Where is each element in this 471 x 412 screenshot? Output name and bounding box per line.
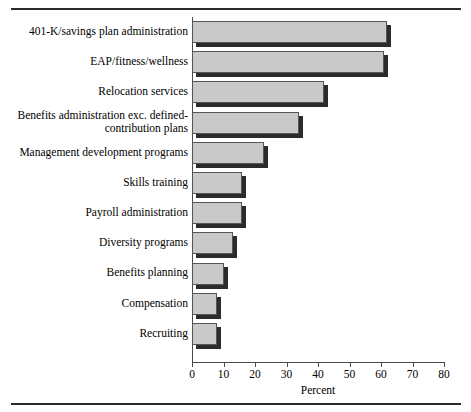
x-tick-label: 80	[438, 368, 450, 380]
chart-figure: 401-K/savings plan administrationEAP/fit…	[0, 0, 471, 412]
x-tick	[192, 362, 193, 367]
bar	[192, 51, 384, 73]
bar	[192, 263, 224, 285]
x-axis-title-text: Percent	[301, 384, 335, 396]
bar	[192, 112, 299, 134]
x-tick-label: 0	[189, 368, 195, 380]
bar	[192, 202, 242, 224]
category-label: Benefits planning	[107, 266, 188, 279]
x-tick	[381, 362, 382, 367]
x-tick	[318, 362, 319, 367]
category-label: Payroll administration	[85, 206, 188, 219]
category-label: Recruiting	[139, 327, 188, 340]
category-label: Skills training	[123, 176, 188, 189]
bar	[192, 323, 217, 345]
bar	[192, 142, 264, 164]
bottom-rule	[11, 403, 461, 405]
x-tick	[413, 362, 414, 367]
bar	[192, 232, 233, 254]
bar	[192, 172, 242, 194]
x-tick-label: 20	[249, 368, 261, 380]
x-tick	[287, 362, 288, 367]
category-label: Relocation services	[98, 85, 188, 98]
x-tick-label: 10	[218, 368, 230, 380]
x-tick	[350, 362, 351, 367]
x-tick	[224, 362, 225, 367]
category-label: Benefits administration exc. defined- co…	[17, 109, 188, 134]
category-label: 401-K/savings plan administration	[29, 25, 188, 38]
x-tick	[444, 362, 445, 367]
bar	[192, 21, 387, 43]
category-label: Compensation	[122, 297, 188, 310]
x-tick-label: 60	[375, 368, 387, 380]
plot-area: 401-K/savings plan administrationEAP/fit…	[0, 0, 471, 395]
bar	[192, 293, 217, 315]
x-tick-label: 70	[407, 368, 419, 380]
category-label: Diversity programs	[99, 236, 188, 249]
x-tick-label: 30	[281, 368, 293, 380]
bar	[192, 81, 324, 103]
x-tick-label: 40	[312, 368, 324, 380]
x-tick-label: 50	[344, 368, 356, 380]
x-tick	[255, 362, 256, 367]
category-label: Management development programs	[19, 146, 188, 159]
category-label: EAP/fitness/wellness	[90, 55, 188, 68]
